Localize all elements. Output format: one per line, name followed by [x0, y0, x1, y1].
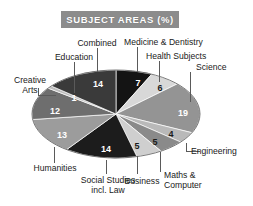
leader-science: [190, 72, 191, 102]
leader-maths: [160, 152, 161, 172]
label-creative-arts-line1: Creative: [6, 75, 54, 85]
slice-value-business: 5: [134, 142, 139, 151]
leader-medicine: [137, 47, 138, 72]
slice-value-medicine: 7: [135, 79, 140, 88]
slice-value-education: 1: [71, 94, 76, 103]
label-health-subjects: Health Subjects: [146, 51, 206, 61]
leader-education: [74, 62, 75, 93]
leader-engineering-v: [186, 143, 187, 152]
slice-value-engineering: 4: [168, 130, 173, 139]
label-science: Science: [196, 62, 227, 72]
slice-value-social: 14: [101, 145, 111, 154]
label-maths-computer-line1: Maths &: [164, 170, 196, 180]
label-education: Education: [44, 52, 104, 62]
leader-health: [159, 61, 160, 82]
slice-value-creative: 12: [50, 107, 60, 116]
slice-value-combined: 14: [93, 80, 103, 89]
label-humanities: Humanities: [20, 163, 90, 173]
pie-chart-figure: SUBJECT AREAS (%) 14 7 6 19 4 5 5 14 13 …: [0, 0, 253, 206]
leader-humanities: [54, 147, 55, 163]
leader-social: [106, 160, 107, 174]
label-social-studies-line2: incl. Law: [72, 185, 144, 195]
leader-creative-h: [38, 95, 56, 96]
slice-value-health: 6: [157, 84, 162, 93]
slice-value-humanities: 13: [57, 131, 67, 140]
slice-value-science: 19: [178, 109, 188, 118]
leader-business: [137, 156, 138, 174]
label-medicine-dentistry: Medicine & Dentistry: [124, 37, 203, 47]
label-engineering: Engineering: [191, 146, 237, 156]
slice-value-maths: 5: [152, 138, 157, 147]
chart-area: 14 7 6 19 4 5 5 14 13 12 1 Combined Medi…: [0, 0, 253, 206]
label-business: Business: [119, 176, 165, 186]
label-maths-computer-line2: Computer: [164, 180, 202, 190]
label-creative-arts-line2: Arts: [6, 85, 54, 95]
label-combined: Combined: [66, 38, 128, 48]
